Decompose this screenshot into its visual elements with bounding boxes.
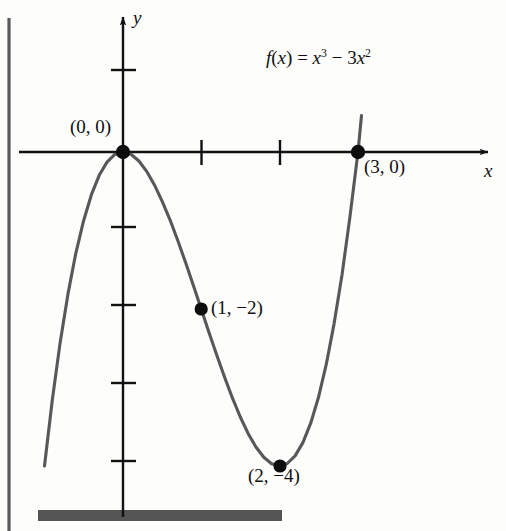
function-curve — [45, 116, 362, 467]
fn-equals-sign: = — [297, 47, 308, 68]
fn-operator: − — [332, 47, 343, 68]
fn-term2-base: x — [357, 47, 365, 68]
plot-layer — [0, 0, 506, 531]
x-axis-label: x — [484, 161, 492, 180]
fn-term2-exponent: 2 — [365, 47, 371, 60]
graph-figure: f(x) = x3 − 3x2 (0, 0) (3, 0) (1, −2) (2… — [0, 0, 506, 531]
fn-term2-coefficient: 3 — [347, 47, 357, 68]
root-point-label: (3, 0) — [364, 157, 405, 176]
fn-term1-base: x — [313, 47, 321, 68]
origin-point-label: (0, 0) — [70, 117, 111, 136]
fn-argument: x — [278, 47, 286, 68]
function-equation-label: f(x) = x3 − 3x2 — [266, 48, 371, 67]
minimum-point-label: (2, −4) — [248, 466, 300, 485]
y-axis-label: y — [133, 8, 141, 27]
inflection-point — [195, 302, 208, 315]
inflection-point-label: (1, −2) — [211, 298, 263, 317]
origin-point — [116, 145, 130, 159]
